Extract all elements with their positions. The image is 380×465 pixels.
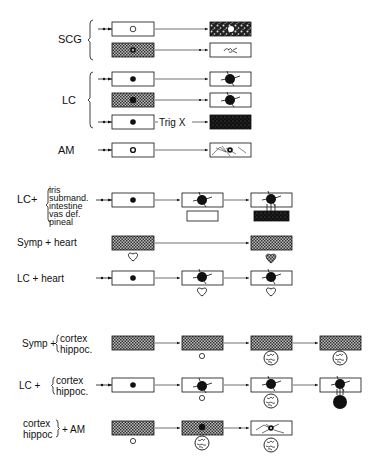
brace-lc: [88, 72, 93, 128]
diagram: SCG LC Trig X AM LC+ iris sub: [0, 0, 380, 465]
target-pineal: pineal: [49, 217, 73, 227]
label-symp-heart: Symp + heart: [17, 237, 77, 248]
target-hippoc: hippoc.: [60, 344, 92, 355]
brace-scg: [88, 20, 93, 60]
label-am: AM: [58, 144, 75, 156]
label-symp-plus: Symp +: [22, 338, 56, 349]
target-cortex: cortex: [60, 333, 87, 344]
target-hippoc-2: hippoc.: [56, 386, 88, 397]
target-cortex-3: cortex: [23, 418, 50, 429]
label-lc: LC: [62, 94, 76, 106]
label-lc-heart: LC + heart: [17, 273, 64, 284]
label-scg: SCG: [58, 33, 82, 45]
label-lcplus: LC+: [17, 193, 38, 205]
label-lc-plus2: LC +: [19, 380, 41, 391]
label-plus-am: + AM: [62, 424, 85, 435]
label-trig-x: Trig X: [159, 117, 186, 128]
target-cortex-2: cortex: [56, 375, 83, 386]
target-hippoc-3: hippoc: [23, 429, 52, 440]
